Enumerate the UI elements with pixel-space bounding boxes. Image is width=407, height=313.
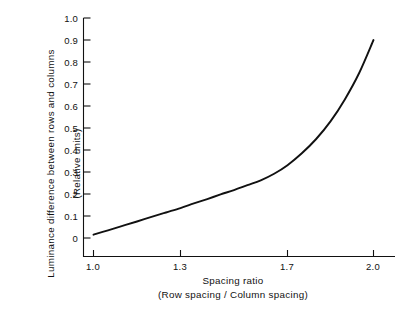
chart-figure: 1.0 0.9 0.8 0.7 0.6 0.5 0.4 0.3 0.2 0.1 … — [0, 0, 407, 313]
x-axis-ticks — [94, 250, 374, 257]
x-axis-title-sub: (Row spacing / Column spacing) — [93, 288, 373, 302]
x-axis-title: Spacing ratio (Row spacing / Column spac… — [93, 274, 373, 301]
x-tick-label: 1.3 — [173, 261, 187, 272]
data-series-line — [94, 40, 374, 235]
y-axis-title-main: Luminance difference between rows and co… — [44, 39, 57, 289]
x-tick-label: 2.0 — [366, 261, 380, 272]
x-axis-title-main: Spacing ratio — [93, 274, 373, 288]
y-axis-title: Luminance difference between rows and co… — [31, 39, 96, 289]
y-axis-title-units: (Relative units) — [70, 39, 83, 289]
x-tick-label: 1.7 — [280, 261, 294, 272]
y-tick-label: 1.0 — [50, 13, 78, 24]
